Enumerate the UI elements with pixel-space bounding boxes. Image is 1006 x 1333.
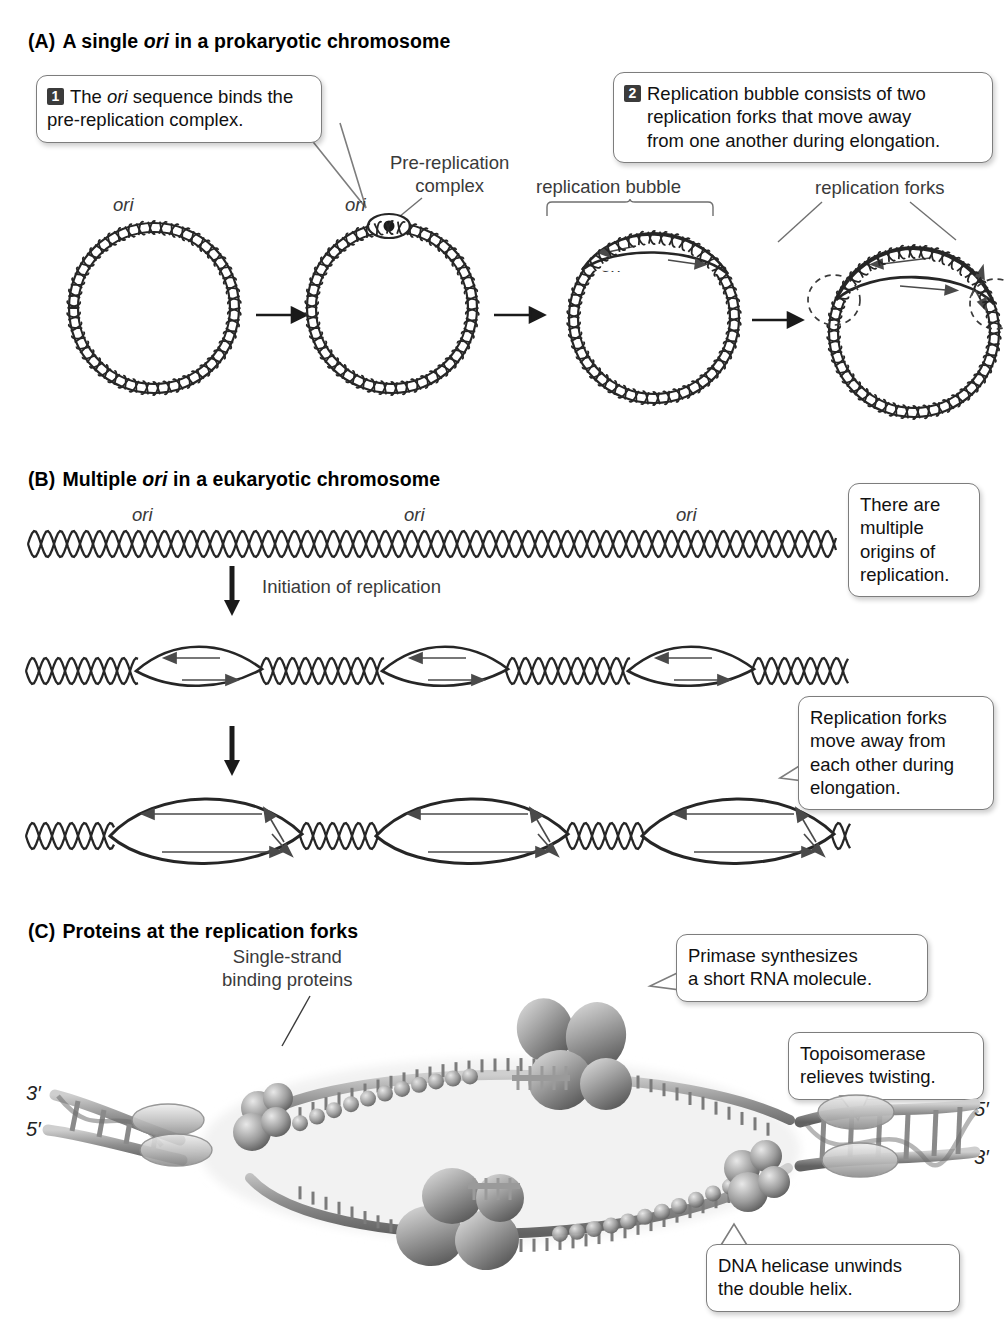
section-a-title-italic: ori <box>144 30 169 52</box>
callout-1-text-b: sequence binds the <box>128 86 294 107</box>
section-b-title-italic: ori <box>142 468 167 490</box>
primase-line-2: a short RNA molecule. <box>688 968 872 989</box>
topoisomerase-right-clamp <box>818 1095 898 1177</box>
forks-move-line-2: move away from <box>810 730 946 751</box>
label-single-strand-binding-proteins: Single-strand binding proteins <box>222 946 353 991</box>
callout-step-1: 1The ori sequence binds thepre-replicati… <box>36 75 322 143</box>
primase-line-1: Primase synthesizes <box>688 945 858 966</box>
panel-c-replication-fork-artwork <box>0 1000 1006 1290</box>
chromosome-stage-4 <box>808 247 1006 417</box>
chromosome-stage-2 <box>307 214 477 393</box>
step-number-badge: 2 <box>624 85 641 102</box>
label-initiation-of-replication: Initiation of replication <box>262 576 441 599</box>
section-b-heading: (B)Multiple ori in a eukaryotic chromoso… <box>28 468 440 491</box>
ssb-line-1: Single-strand <box>233 946 342 967</box>
multiple-origins-line-4: replication. <box>860 564 949 585</box>
topoisomerase-left-clamp <box>132 1104 212 1166</box>
section-c-heading: (C)Proteins at the replication forks <box>28 920 358 943</box>
panel-b-row-large-bubbles <box>24 790 854 876</box>
callout-2-line-3: from one another during elongation. <box>647 129 940 152</box>
chromosome-stage-3 <box>569 233 739 403</box>
panel-b-row-unreplicated <box>24 524 844 564</box>
forks-move-line-3: each other during <box>810 754 954 775</box>
initiation-step-arrow <box>220 566 254 620</box>
stage-arrow-1 <box>256 308 306 322</box>
panel-b-row-small-bubbles <box>24 636 854 706</box>
multiple-origins-line-3: origins of <box>860 541 935 562</box>
multiple-origins-line-1: There are <box>860 494 940 515</box>
label-ori-b-1: ori <box>132 504 153 526</box>
label-pre-replication-complex: Pre-replication complex <box>390 152 509 197</box>
section-a-title-plain: A single <box>62 30 143 52</box>
label-ori-b-3: ori <box>676 504 697 526</box>
section-c-lead: (C) <box>28 920 55 942</box>
pre-replication-complex-line-2: complex <box>415 175 484 196</box>
section-c-title: Proteins at the replication forks <box>62 920 358 942</box>
pre-replication-complex-dot <box>384 221 395 232</box>
section-b-title-plain: Multiple <box>62 468 142 490</box>
label-ori-b-2: ori <box>404 504 425 526</box>
section-a-lead: (A) <box>28 30 55 52</box>
callout-1-text-a: The <box>70 86 107 107</box>
callout-primase: Primase synthesizes a short RNA molecule… <box>676 934 928 1002</box>
section-a-title-rest: in a prokaryotic chromosome <box>169 30 450 52</box>
section-a-heading: (A)A single ori in a prokaryotic chromos… <box>28 30 450 53</box>
pre-replication-complex-line-1: Pre-replication <box>390 152 509 173</box>
callout-multiple-origins: There are multiple origins of replicatio… <box>848 483 980 597</box>
ssb-line-2: binding proteins <box>222 969 353 990</box>
forks-move-line-1: Replication forks <box>810 707 947 728</box>
multiple-origins-line-2: multiple <box>860 517 924 538</box>
label-replication-forks: replication forks <box>815 177 945 200</box>
label-replication-bubble: replication bubble <box>536 176 681 199</box>
chromosome-stage-1 <box>69 223 239 393</box>
callout-1-line-2: pre-replication complex. <box>47 109 243 130</box>
step-number-badge: 1 <box>47 88 64 105</box>
callout-1-ori: ori <box>107 86 128 107</box>
callout-step-2: 2Replication bubble consists of tworepli… <box>613 72 993 163</box>
panel-a-chromosome-stages <box>24 200 1004 435</box>
section-b-lead: (B) <box>28 468 55 490</box>
elongation-step-arrow <box>220 726 254 780</box>
stage-arrow-2 <box>494 308 544 322</box>
section-b-title-rest: in a eukaryotic chromosome <box>168 468 441 490</box>
callout-2-line-2: replication forks that move away <box>647 105 911 128</box>
stage-arrow-3 <box>752 313 802 327</box>
callout-2-line-1: Replication bubble consists of two <box>647 83 926 104</box>
